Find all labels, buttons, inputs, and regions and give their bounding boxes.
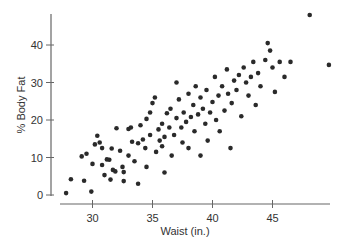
data-point: [214, 118, 219, 123]
data-point: [144, 165, 149, 170]
data-point: [82, 179, 87, 184]
data-point: [205, 138, 210, 143]
data-point: [198, 153, 203, 158]
data-point: [220, 84, 225, 89]
data-point: [84, 152, 89, 157]
data-point: [201, 107, 206, 112]
data-point: [89, 189, 94, 194]
data-point: [241, 65, 246, 70]
data-point: [162, 135, 167, 140]
data-point: [138, 123, 143, 128]
data-point: [217, 129, 222, 134]
data-point: [179, 125, 184, 130]
data-point: [143, 146, 148, 151]
data-point: [253, 103, 258, 108]
data-point: [234, 88, 239, 93]
data-point: [113, 169, 118, 174]
data-point: [203, 122, 208, 127]
data-point: [204, 88, 209, 93]
data-point: [148, 110, 153, 115]
data-point: [148, 133, 153, 138]
data-point: [210, 100, 215, 105]
data-point: [90, 162, 95, 167]
y-tick-label: 0: [37, 189, 43, 201]
data-point: [184, 120, 189, 125]
data-point: [225, 67, 230, 72]
data-point: [97, 140, 102, 145]
y-tick-label: 10: [31, 152, 43, 164]
data-point: [213, 75, 218, 80]
data-point: [186, 146, 191, 151]
y-tick-label: 20: [31, 114, 43, 126]
data-point: [181, 110, 186, 115]
data-point: [169, 153, 174, 158]
data-point: [132, 159, 137, 164]
data-point: [100, 163, 105, 168]
data-point: [167, 125, 172, 130]
data-point: [216, 93, 221, 98]
data-point: [174, 80, 179, 85]
data-point: [156, 127, 161, 132]
x-tick-label: 30: [86, 212, 98, 224]
data-point: [263, 58, 268, 63]
data-point: [126, 153, 131, 158]
data-point: [144, 117, 149, 122]
data-point: [226, 92, 231, 97]
data-point: [277, 60, 282, 65]
data-point: [108, 177, 113, 182]
data-point: [228, 146, 233, 151]
data-point: [268, 48, 273, 53]
data-point: [180, 140, 185, 145]
data-point: [265, 41, 270, 46]
data-point: [191, 103, 196, 108]
data-point: [282, 75, 287, 80]
data-point: [157, 138, 162, 143]
data-point: [251, 60, 256, 65]
data-point: [177, 97, 182, 102]
data-points: [64, 13, 331, 196]
data-point: [196, 112, 201, 117]
data-point: [118, 149, 123, 154]
data-point: [160, 144, 165, 149]
data-point: [244, 80, 249, 85]
data-point: [121, 179, 126, 184]
y-axis-title: % Body Fat: [15, 77, 27, 134]
data-point: [270, 65, 275, 70]
data-point: [192, 129, 197, 134]
data-point: [160, 122, 165, 127]
data-point: [129, 125, 134, 130]
x-tick-label: 35: [146, 212, 158, 224]
data-point: [162, 170, 167, 175]
data-point: [93, 142, 98, 147]
data-point: [193, 84, 198, 89]
data-point: [79, 154, 84, 159]
data-point: [69, 177, 74, 182]
y-tick-label: 40: [31, 39, 43, 51]
data-point: [229, 101, 234, 106]
data-point: [141, 137, 146, 142]
data-point: [232, 78, 237, 83]
data-point: [273, 90, 278, 95]
data-point: [249, 75, 254, 80]
data-point: [153, 95, 158, 100]
data-point: [136, 182, 141, 187]
data-point: [174, 116, 179, 121]
data-point: [172, 133, 177, 138]
data-point: [239, 114, 244, 119]
data-point: [64, 191, 69, 196]
data-point: [102, 173, 107, 178]
data-point: [154, 150, 159, 155]
data-point: [120, 165, 125, 170]
scatter-chart: 010203040 30354045 Waist (in.) % Body Fa…: [0, 0, 345, 252]
data-point: [327, 63, 332, 68]
data-point: [186, 92, 191, 97]
data-point: [307, 13, 312, 18]
data-point: [288, 60, 293, 65]
data-point: [95, 134, 100, 139]
x-tick-label: 45: [266, 212, 278, 224]
data-point: [208, 110, 213, 115]
data-point: [258, 84, 263, 89]
data-point: [100, 146, 105, 151]
data-point: [130, 140, 135, 145]
data-point: [256, 71, 261, 76]
